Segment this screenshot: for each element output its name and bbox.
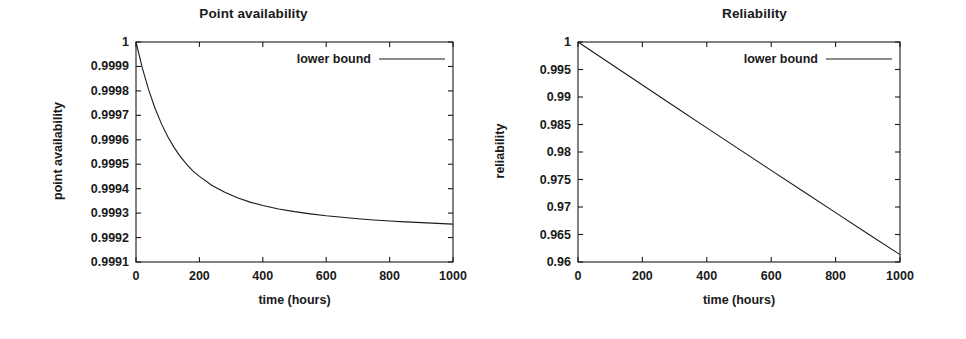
x-tick-label: 200 xyxy=(632,269,653,283)
chart-panel-point-availability: Point availability point availability ti… xyxy=(0,0,483,339)
y-tick-label: 0.97 xyxy=(547,200,571,214)
x-tick-label: 400 xyxy=(696,269,717,283)
legend-label-lower-bound: lower bound xyxy=(297,52,371,66)
y-tick-label: 0.9998 xyxy=(91,84,129,98)
x-tick-label: 0 xyxy=(575,269,582,283)
plot-area-reliability xyxy=(483,0,966,339)
x-tick-label: 400 xyxy=(252,269,273,283)
y-tick-label: 0.9992 xyxy=(91,231,129,245)
y-tick-label: 0.96 xyxy=(547,255,571,269)
y-tick-label: 0.98 xyxy=(547,145,571,159)
y-tick-label: 0.9999 xyxy=(91,59,129,73)
x-axis-title-reliability: time (hours) xyxy=(639,293,839,307)
y-tick-label: 1 xyxy=(564,35,571,49)
x-tick-label: 200 xyxy=(189,269,210,283)
x-tick-label: 800 xyxy=(379,269,400,283)
y-tick-label: 0.995 xyxy=(540,63,571,77)
y-axis-title-point-availability: point availability xyxy=(51,41,65,261)
x-tick-label: 600 xyxy=(761,269,782,283)
plot-area-point-availability xyxy=(0,0,483,339)
y-axis-title-reliability: reliability xyxy=(493,41,507,261)
x-axis-title-point-availability: time (hours) xyxy=(195,293,395,307)
x-tick-label: 800 xyxy=(825,269,846,283)
y-tick-label: 0.985 xyxy=(540,118,571,132)
y-tick-label: 0.9997 xyxy=(91,108,129,122)
x-tick-label: 600 xyxy=(316,269,337,283)
x-tick-label: 1000 xyxy=(886,269,914,283)
y-tick-label: 0.9991 xyxy=(91,255,129,269)
y-tick-label: 0.975 xyxy=(540,173,571,187)
y-tick-label: 0.9993 xyxy=(91,206,129,220)
x-tick-label: 0 xyxy=(133,269,140,283)
x-tick-label: 1000 xyxy=(439,269,467,283)
y-tick-label: 1 xyxy=(122,35,129,49)
figure-container: Point availability point availability ti… xyxy=(0,0,966,339)
y-tick-label: 0.9995 xyxy=(91,157,129,171)
y-tick-label: 0.99 xyxy=(547,90,571,104)
y-tick-label: 0.9994 xyxy=(91,182,129,196)
legend-label-lower-bound: lower bound xyxy=(744,52,818,66)
chart-panel-reliability: Reliability reliability time (hours) low… xyxy=(483,0,966,339)
y-tick-label: 0.965 xyxy=(540,228,571,242)
y-tick-label: 0.9996 xyxy=(91,133,129,147)
